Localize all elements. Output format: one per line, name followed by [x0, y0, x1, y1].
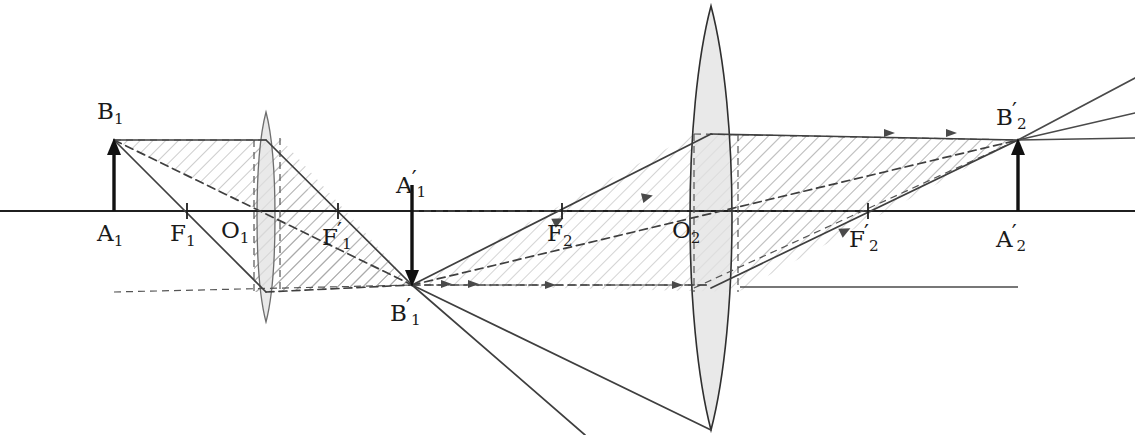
label-A2-prime-base: A [996, 226, 1013, 252]
label-A1-base: A [97, 220, 114, 246]
diagram-canvas [0, 0, 1135, 435]
label-F2-prime-base: F [849, 226, 865, 252]
label-O2: O2 [672, 219, 701, 246]
label-F1-prime-subscript: 1 [342, 235, 352, 253]
ray-diagram-figure: B1A1F1O1F′1A′1B′1F2O2F′2B′2A′2 [0, 0, 1135, 435]
label-B1-prime: B′1 [390, 296, 421, 328]
label-F1-subscript: 1 [186, 232, 196, 250]
label-F2: F2 [547, 222, 573, 249]
label-A1-subscript: 1 [114, 232, 124, 250]
label-A2-prime: A′2 [996, 222, 1026, 254]
label-O2-subscript: 2 [691, 229, 701, 247]
label-B2-prime: B′2 [996, 100, 1027, 132]
beam-lens2-to-image2 [694, 134, 1018, 292]
ray-diverge-low-2 [412, 285, 585, 435]
label-A1: A1 [97, 222, 123, 249]
label-F1-prime-base: F [322, 224, 338, 250]
label-F2-subscript: 2 [563, 232, 573, 250]
label-B1-subscript: 1 [114, 110, 124, 128]
ray-exit-steep [1018, 78, 1135, 140]
ray-diverge-low-1 [412, 285, 711, 430]
label-F1-prime: F′1 [322, 220, 352, 252]
ray-exit-medium [1018, 113, 1135, 140]
label-O1-subscript: 1 [240, 229, 250, 247]
label-F2-base: F [547, 220, 563, 246]
label-F1-base: F [170, 220, 186, 246]
label-F2-prime: F′2 [849, 222, 879, 254]
label-B1: B1 [97, 100, 124, 127]
beam-image1-to-lens2 [412, 134, 738, 292]
label-A1-prime: A′1 [396, 168, 426, 200]
label-A2-prime-subscript: 2 [1017, 237, 1027, 255]
label-F1: F1 [170, 222, 196, 249]
label-A1-prime-subscript: 1 [417, 183, 427, 201]
label-B1-prime-base: B [390, 300, 407, 326]
label-O1-base: O [221, 217, 240, 243]
label-O2-base: O [672, 217, 691, 243]
lens-2 [690, 6, 732, 430]
ray-exit-flat [1018, 138, 1135, 140]
label-O1: O1 [221, 219, 250, 246]
label-B1-prime-subscript: 1 [411, 311, 421, 329]
label-B2-prime-subscript: 2 [1017, 115, 1027, 133]
label-A1-prime-base: A [396, 172, 413, 198]
label-B2-prime-base: B [996, 104, 1013, 130]
label-B1-base: B [97, 98, 114, 124]
label-F2-prime-subscript: 2 [869, 237, 879, 255]
ray-group-beyond-image2 [1018, 78, 1135, 140]
